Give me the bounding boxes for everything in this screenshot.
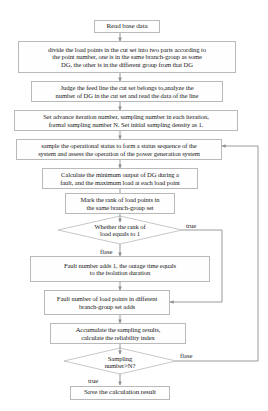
edge-label-rank-true: true [186, 222, 196, 229]
node-label: Whether the rank of load equals to 1 [68, 223, 172, 238]
node-save-calculation-result: Save the calculation result [70, 386, 170, 400]
node-label: divide the load points in the cut set in… [21, 46, 233, 68]
node-accumulate-results: Accumulate the sampling results, calcula… [50, 323, 186, 344]
node-judge-feed-line: Judge the feed line the cut set belongs … [31, 81, 223, 102]
node-decision-rank: Whether the rank of load equals to 1 [68, 219, 172, 241]
edge-label-sampling-false: flase [180, 352, 192, 359]
flowchart-canvas: Read base data divide the load points in… [0, 0, 268, 411]
node-set-iteration-numbers: Set advance iteration number, sampling n… [14, 110, 238, 131]
edge-label-sampling-true: true [88, 377, 98, 384]
node-label: Sampling number>N? [84, 355, 156, 370]
node-read-base-data: Read base data [94, 20, 160, 33]
node-mark-rank: Mark the rank of load points in the same… [65, 193, 175, 214]
node-label: Judge the feed line the cut set belongs … [34, 84, 220, 99]
node-label: Mark the rank of load points in the same… [68, 196, 172, 211]
node-fault-number-different-group: Fault number of load points in different… [44, 290, 170, 315]
node-label: Fault number of load points in different… [47, 295, 167, 310]
node-label: Read base data [97, 23, 157, 31]
node-sample-operational-status: sample the operational status to form a … [16, 139, 222, 160]
node-label: Set advance iteration number, sampling n… [17, 113, 235, 128]
edge-label-rank-false: flase [100, 248, 112, 255]
node-fault-number-adds-outage: Fault number adds 1, the outage time equ… [30, 256, 210, 282]
node-divide-load-points: divide the load points in the cut set in… [18, 41, 236, 73]
node-label: Accumulate the sampling results, calcula… [53, 326, 183, 341]
node-label: Save the calculation result [73, 389, 167, 397]
node-label: Fault number adds 1, the outage time equ… [33, 262, 207, 277]
node-calculate-min-output: Calculate the minimum output of DG durin… [42, 168, 198, 189]
node-label: Calculate the minimum output of DG durin… [45, 171, 195, 186]
node-decision-sampling: Sampling number>N? [84, 351, 156, 373]
node-label: sample the operational status to form a … [19, 142, 219, 157]
